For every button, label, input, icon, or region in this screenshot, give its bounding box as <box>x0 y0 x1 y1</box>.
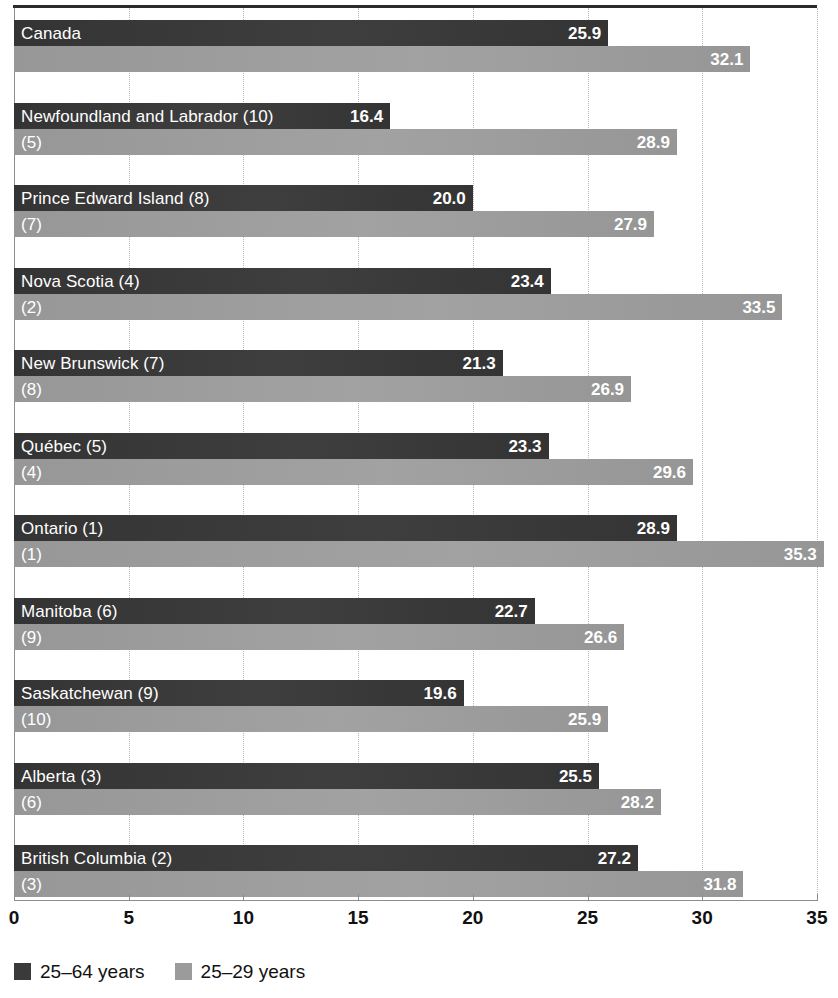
bar-value-label: 27.2 <box>598 850 631 867</box>
x-tick-label: 30 <box>692 908 713 927</box>
axis-tick-20 <box>473 894 474 901</box>
x-tick-label: 25 <box>577 908 598 927</box>
axis-tick-0 <box>14 894 15 901</box>
bar-primary: Alberta (3)25.5 <box>14 763 599 789</box>
bar-rank-label: (2) <box>21 298 42 315</box>
bar-group: Alberta (3)25.5(6)28.2 <box>0 763 838 816</box>
bar-group: Nova Scotia (4)23.4(2)33.5 <box>0 268 838 321</box>
axis-tick-30 <box>702 894 703 901</box>
bar-group: British Columbia (2)27.2(3)31.8 <box>0 845 838 898</box>
bar-chart: Canada25.932.1Newfoundland and Labrador … <box>0 0 838 998</box>
bar-secondary: (7)27.9 <box>14 211 654 237</box>
bar-secondary: (3)31.8 <box>14 871 743 897</box>
bar-value-label: 26.9 <box>591 381 624 398</box>
bar-value-label: 35.3 <box>784 546 817 563</box>
bar-group: Saskatchewan (9)19.6(10)25.9 <box>0 680 838 733</box>
bar-value-label: 28.9 <box>637 520 670 537</box>
legend-swatch-icon <box>175 963 192 980</box>
bar-group: Canada25.932.1 <box>0 20 838 73</box>
legend-item: 25–64 years <box>14 962 145 981</box>
x-tick-label: 0 <box>9 908 20 927</box>
bar-group: Québec (5)23.3(4)29.6 <box>0 433 838 486</box>
bar-rank-label: (10) <box>21 711 52 728</box>
bar-primary: Québec (5)23.3 <box>14 433 549 459</box>
bar-value-label: 23.4 <box>511 272 544 289</box>
bar-group: Manitoba (6)22.7(9)26.6 <box>0 598 838 651</box>
bar-primary: Manitoba (6)22.7 <box>14 598 535 624</box>
x-axis-line <box>14 900 817 901</box>
legend: 25–64 years25–29 years <box>14 962 305 981</box>
plot-top-rule <box>13 5 817 8</box>
bar-value-label: 25.9 <box>568 25 601 42</box>
bar-rank-label: (5) <box>21 133 42 150</box>
axis-tick-5 <box>129 894 130 901</box>
axis-tick-10 <box>243 894 244 901</box>
bar-category-label: Newfoundland and Labrador (10) <box>21 107 274 124</box>
bar-value-label: 16.4 <box>350 107 383 124</box>
bar-primary: British Columbia (2)27.2 <box>14 845 638 871</box>
bar-secondary: (6)28.2 <box>14 789 661 815</box>
legend-swatch-icon <box>14 963 31 980</box>
bar-value-label: 26.6 <box>584 628 617 645</box>
bar-primary: Nova Scotia (4)23.4 <box>14 268 551 294</box>
bar-category-label: Saskatchewan (9) <box>21 685 159 702</box>
bar-rank-label: (1) <box>21 546 42 563</box>
bar-category-label: Québec (5) <box>21 437 107 454</box>
bar-value-label: 31.8 <box>703 876 736 893</box>
x-tick-label: 10 <box>233 908 254 927</box>
bar-primary: Newfoundland and Labrador (10)16.4 <box>14 103 390 129</box>
bar-rank-label: (6) <box>21 793 42 810</box>
bar-group: Newfoundland and Labrador (10)16.4(5)28.… <box>0 103 838 156</box>
bar-category-label: Manitoba (6) <box>21 602 118 619</box>
bar-category-label: British Columbia (2) <box>21 850 172 867</box>
legend-item: 25–29 years <box>175 962 306 981</box>
bar-secondary: (5)28.9 <box>14 129 677 155</box>
bar-rank-label: (3) <box>21 876 42 893</box>
bar-category-label: Ontario (1) <box>21 520 103 537</box>
bar-value-label: 21.3 <box>463 355 496 372</box>
bar-primary: Saskatchewan (9)19.6 <box>14 680 464 706</box>
x-tick-label: 5 <box>123 908 134 927</box>
x-tick-label: 20 <box>462 908 483 927</box>
bar-category-label: Prince Edward Island (8) <box>21 190 210 207</box>
bar-primary: New Brunswick (7)21.3 <box>14 350 503 376</box>
x-tick-label: 15 <box>348 908 369 927</box>
axis-tick-35 <box>817 894 818 901</box>
bar-value-label: 28.9 <box>637 133 670 150</box>
axis-tick-15 <box>358 894 359 901</box>
bar-primary: Prince Edward Island (8)20.0 <box>14 185 473 211</box>
bar-rank-label: (8) <box>21 381 42 398</box>
bar-group: New Brunswick (7)21.3(8)26.9 <box>0 350 838 403</box>
bar-primary: Canada25.9 <box>14 20 608 46</box>
plot-area: Canada25.932.1Newfoundland and Labrador … <box>0 0 838 905</box>
bar-rank-label: (9) <box>21 628 42 645</box>
axis-tick-25 <box>588 894 589 901</box>
legend-label: 25–29 years <box>201 962 306 981</box>
bar-secondary: (2)33.5 <box>14 294 782 320</box>
bar-value-label: 23.3 <box>508 437 541 454</box>
bar-value-label: 28.2 <box>621 793 654 810</box>
bar-value-label: 19.6 <box>424 685 457 702</box>
bar-group: Prince Edward Island (8)20.0(7)27.9 <box>0 185 838 238</box>
bar-rank-label: (4) <box>21 463 42 480</box>
bar-secondary: (1)35.3 <box>14 541 824 567</box>
bar-value-label: 22.7 <box>495 602 528 619</box>
legend-label: 25–64 years <box>40 962 145 981</box>
bar-secondary: (4)29.6 <box>14 459 693 485</box>
bar-secondary: (8)26.9 <box>14 376 631 402</box>
bar-primary: Ontario (1)28.9 <box>14 515 677 541</box>
bar-category-label: New Brunswick (7) <box>21 355 164 372</box>
bar-secondary: 32.1 <box>14 46 750 72</box>
x-tick-label: 35 <box>806 908 827 927</box>
bar-value-label: 33.5 <box>742 298 775 315</box>
bar-category-label: Nova Scotia (4) <box>21 272 140 289</box>
bar-value-label: 25.5 <box>559 767 592 784</box>
bar-value-label: 25.9 <box>568 711 601 728</box>
bar-value-label: 27.9 <box>614 216 647 233</box>
bar-secondary: (10)25.9 <box>14 706 608 732</box>
bar-category-label: Alberta (3) <box>21 767 101 784</box>
bar-value-label: 29.6 <box>653 463 686 480</box>
bar-value-label: 32.1 <box>710 51 743 68</box>
bar-value-label: 20.0 <box>433 190 466 207</box>
bar-group: Ontario (1)28.9(1)35.3 <box>0 515 838 568</box>
